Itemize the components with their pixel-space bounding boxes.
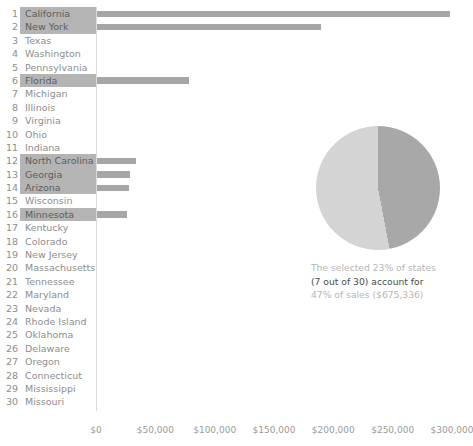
state-label-cell[interactable]: New York (20, 20, 96, 33)
state-label-cell[interactable]: Indiana (20, 141, 96, 154)
state-label: Kentucky (25, 221, 68, 234)
state-label-cell[interactable]: Missouri (20, 395, 96, 408)
state-label: Virginia (25, 114, 61, 127)
state-label: Indiana (25, 141, 60, 154)
state-label-cell[interactable]: Florida (20, 74, 96, 87)
row-rank: 8 (0, 101, 18, 114)
value-bar[interactable] (96, 211, 127, 218)
table-row[interactable]: 3Texas (0, 34, 466, 47)
state-label-cell[interactable]: Wisconsin (20, 194, 96, 207)
table-row[interactable]: 7Michigan (0, 87, 466, 100)
table-row[interactable]: 25Oklahoma (0, 328, 466, 341)
selection-summary-annotation: The selected 23% of states (7 out of 30)… (311, 261, 461, 302)
row-rank: 23 (0, 302, 18, 315)
state-label: Arizona (25, 181, 61, 194)
row-rank: 13 (0, 168, 18, 181)
row-rank: 6 (0, 74, 18, 87)
x-tick-label: $300,000 (431, 425, 473, 435)
x-tick-label: $150,000 (253, 425, 296, 435)
table-row[interactable]: 28Connecticut (0, 369, 466, 382)
state-label-cell[interactable]: Georgia (20, 168, 96, 181)
share-pie-chart[interactable] (316, 126, 440, 250)
annotation-line-2: (7 out of 30) account for (311, 275, 461, 289)
state-label-cell[interactable]: Rhode Island (20, 315, 96, 328)
state-label-cell[interactable]: Delaware (20, 342, 96, 355)
table-row[interactable]: 2New York (0, 20, 466, 33)
state-label-cell[interactable]: Maryland (20, 288, 96, 301)
state-label: Tennessee (25, 275, 75, 288)
row-rank: 1 (0, 7, 18, 20)
state-label-cell[interactable]: Mississippi (20, 382, 96, 395)
row-rank: 25 (0, 328, 18, 341)
table-row[interactable]: 27Oregon (0, 355, 466, 368)
state-label-cell[interactable]: Oklahoma (20, 328, 96, 341)
state-label-cell[interactable]: Illinois (20, 101, 96, 114)
state-label: Illinois (25, 101, 55, 114)
state-label: Ohio (25, 128, 47, 141)
state-label: Maryland (25, 288, 69, 301)
state-label-cell[interactable]: North Carolina (20, 154, 96, 167)
table-row[interactable]: 24Rhode Island (0, 315, 466, 328)
value-bar[interactable] (96, 77, 189, 84)
state-label: Mississippi (25, 382, 76, 395)
clipped-title (130, 0, 460, 4)
value-bar[interactable] (96, 11, 450, 18)
state-label-cell[interactable]: Connecticut (20, 369, 96, 382)
state-label-cell[interactable]: Colorado (20, 235, 96, 248)
state-label-cell[interactable]: Nevada (20, 302, 96, 315)
value-axis-line (96, 7, 97, 411)
state-label-cell[interactable]: Kentucky (20, 221, 96, 234)
row-rank: 2 (0, 20, 18, 33)
state-label-cell[interactable]: Ohio (20, 128, 96, 141)
table-row[interactable]: 4Washington (0, 47, 466, 60)
state-label-cell[interactable]: Minnesota (20, 208, 96, 221)
state-label-cell[interactable]: Oregon (20, 355, 96, 368)
value-bar[interactable] (96, 24, 321, 31)
row-rank: 27 (0, 355, 18, 368)
state-label-cell[interactable]: Arizona (20, 181, 96, 194)
state-label: North Carolina (25, 154, 94, 167)
state-label: Oklahoma (25, 328, 73, 341)
row-rank: 20 (0, 261, 18, 274)
table-row[interactable]: 23Nevada (0, 302, 466, 315)
table-row[interactable]: 5Pennsylvania (0, 61, 466, 74)
state-label: Colorado (25, 235, 67, 248)
table-row[interactable]: 1California (0, 7, 466, 20)
state-label-cell[interactable]: New Jersey (20, 248, 96, 261)
row-rank: 21 (0, 275, 18, 288)
state-label-cell[interactable]: Texas (20, 34, 96, 47)
table-row[interactable]: 29Mississippi (0, 382, 466, 395)
row-rank: 26 (0, 342, 18, 355)
state-label: California (25, 7, 70, 20)
state-label-cell[interactable]: Tennessee (20, 275, 96, 288)
state-label-cell[interactable]: Michigan (20, 87, 96, 100)
row-rank: 30 (0, 395, 18, 408)
value-bar[interactable] (96, 171, 130, 178)
value-bar[interactable] (96, 158, 136, 165)
state-label: Wisconsin (25, 194, 72, 207)
state-label: Rhode Island (25, 315, 87, 328)
state-label: Florida (25, 74, 57, 87)
state-label-cell[interactable]: Massachusetts (20, 261, 96, 274)
table-row[interactable]: 19New Jersey (0, 248, 466, 261)
state-label: Oregon (25, 355, 60, 368)
state-label-cell[interactable]: Pennsylvania (20, 61, 96, 74)
row-rank: 29 (0, 382, 18, 395)
row-rank: 5 (0, 61, 18, 74)
table-row[interactable]: 6Florida (0, 74, 466, 87)
row-rank: 4 (0, 47, 18, 60)
state-label-cell[interactable]: California (20, 7, 96, 20)
row-rank: 7 (0, 87, 18, 100)
state-label-cell[interactable]: Virginia (20, 114, 96, 127)
row-rank: 24 (0, 315, 18, 328)
value-bar[interactable] (96, 185, 129, 192)
state-label: Texas (25, 34, 51, 47)
state-label: Michigan (25, 87, 68, 100)
table-row[interactable]: 26Delaware (0, 342, 466, 355)
x-tick-label: $100,000 (193, 425, 236, 435)
table-row[interactable]: 30Missouri (0, 395, 466, 408)
table-row[interactable]: 8Illinois (0, 101, 466, 114)
state-label-cell[interactable]: Washington (20, 47, 96, 60)
row-rank: 17 (0, 221, 18, 234)
